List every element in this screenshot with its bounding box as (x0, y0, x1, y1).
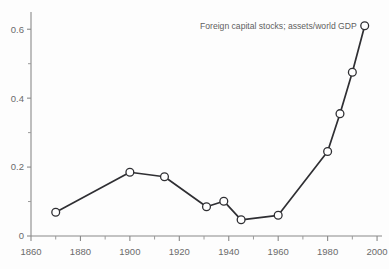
series-line (56, 26, 365, 220)
series-annotation-label: Foreign capital stocks; assets/world GDP (200, 21, 357, 31)
data-point-marker[interactable] (203, 203, 211, 211)
data-point-marker[interactable] (274, 211, 282, 219)
data-point-marker[interactable] (361, 22, 369, 30)
x-tick-label: 1960 (268, 246, 289, 257)
x-tick-label: 1880 (70, 246, 91, 257)
data-point-marker[interactable] (237, 216, 245, 224)
data-point-marker[interactable] (52, 208, 60, 216)
x-tick-label: 1940 (218, 246, 239, 257)
x-tick-label: 1980 (317, 246, 338, 257)
y-tick-label: 0.2 (11, 161, 24, 172)
y-tick-label: 0.4 (11, 93, 24, 104)
data-point-marker[interactable] (324, 148, 332, 156)
y-tick-label: 0.6 (11, 24, 24, 35)
data-point-marker[interactable] (220, 197, 228, 205)
chart-container: 00.20.40.6186018801900192019401960198020… (0, 0, 389, 269)
data-point-marker[interactable] (348, 68, 356, 76)
line-chart: 00.20.40.6186018801900192019401960198020… (0, 0, 389, 269)
data-point-marker[interactable] (126, 168, 134, 176)
x-tick-label: 1900 (119, 246, 140, 257)
y-tick-label: 0 (19, 230, 24, 241)
x-tick-label: 2000 (366, 246, 387, 257)
data-point-marker[interactable] (161, 173, 169, 181)
data-point-marker[interactable] (336, 110, 344, 118)
x-tick-label: 1860 (20, 246, 41, 257)
x-tick-label: 1920 (169, 246, 190, 257)
